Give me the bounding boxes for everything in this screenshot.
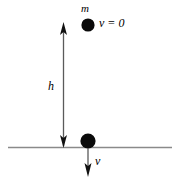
final-velocity-label: v — [95, 155, 100, 167]
mass-label: m — [81, 3, 89, 14]
mass-ball-top — [81, 18, 94, 31]
diagram-canvas — [0, 0, 177, 181]
mass-ball-bottom — [80, 133, 95, 148]
height-label: h — [48, 80, 54, 92]
initial-velocity-label: v = 0 — [99, 17, 124, 29]
physics-diagram-figure: m v = 0 h v — [0, 0, 177, 181]
